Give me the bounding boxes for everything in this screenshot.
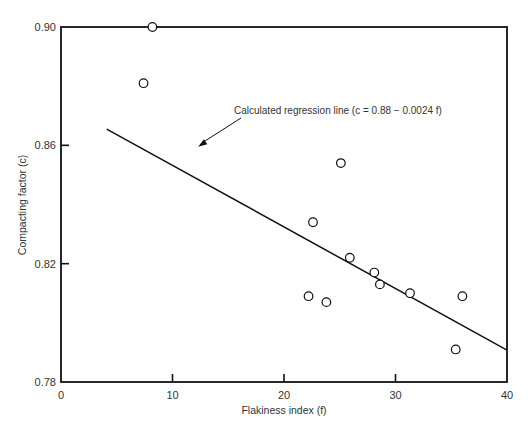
regression-layer — [107, 118, 507, 350]
data-point — [322, 298, 331, 307]
data-point — [345, 253, 354, 262]
x-axis-title: Flakiness index (f) — [241, 404, 326, 416]
data-point — [451, 345, 460, 354]
data-point — [376, 280, 385, 289]
plot-axes — [61, 27, 507, 382]
regression-annotation: Calculated regression line (c = 0.88 − 0… — [234, 105, 442, 116]
x-tick-label: 40 — [501, 389, 513, 401]
data-point — [139, 79, 148, 88]
y-tick-label: 0.86 — [35, 139, 56, 151]
data-point — [304, 292, 313, 301]
data-point — [337, 159, 346, 168]
axis-ticks: 0102030400.780.820.860.90 — [35, 21, 514, 401]
y-tick-label: 0.82 — [35, 258, 56, 270]
y-tick-label: 0.90 — [35, 21, 56, 33]
annotation-arrow-shaft — [202, 118, 241, 143]
x-tick-label: 20 — [278, 389, 290, 401]
data-point — [406, 289, 415, 298]
data-points — [139, 23, 466, 354]
data-point — [370, 268, 379, 277]
scatter-chart: 0102030400.780.820.860.90 Flakiness inde… — [0, 0, 531, 438]
y-tick-label: 0.78 — [35, 376, 56, 388]
x-tick-label: 10 — [166, 389, 178, 401]
y-axis-title: Compacting factor (c) — [16, 155, 28, 255]
x-tick-label: 30 — [389, 389, 401, 401]
data-point — [309, 218, 318, 227]
x-tick-label: 0 — [58, 389, 64, 401]
regression-line — [107, 129, 507, 350]
plot-frame — [61, 27, 507, 382]
data-point — [148, 23, 157, 32]
data-point — [458, 292, 467, 301]
